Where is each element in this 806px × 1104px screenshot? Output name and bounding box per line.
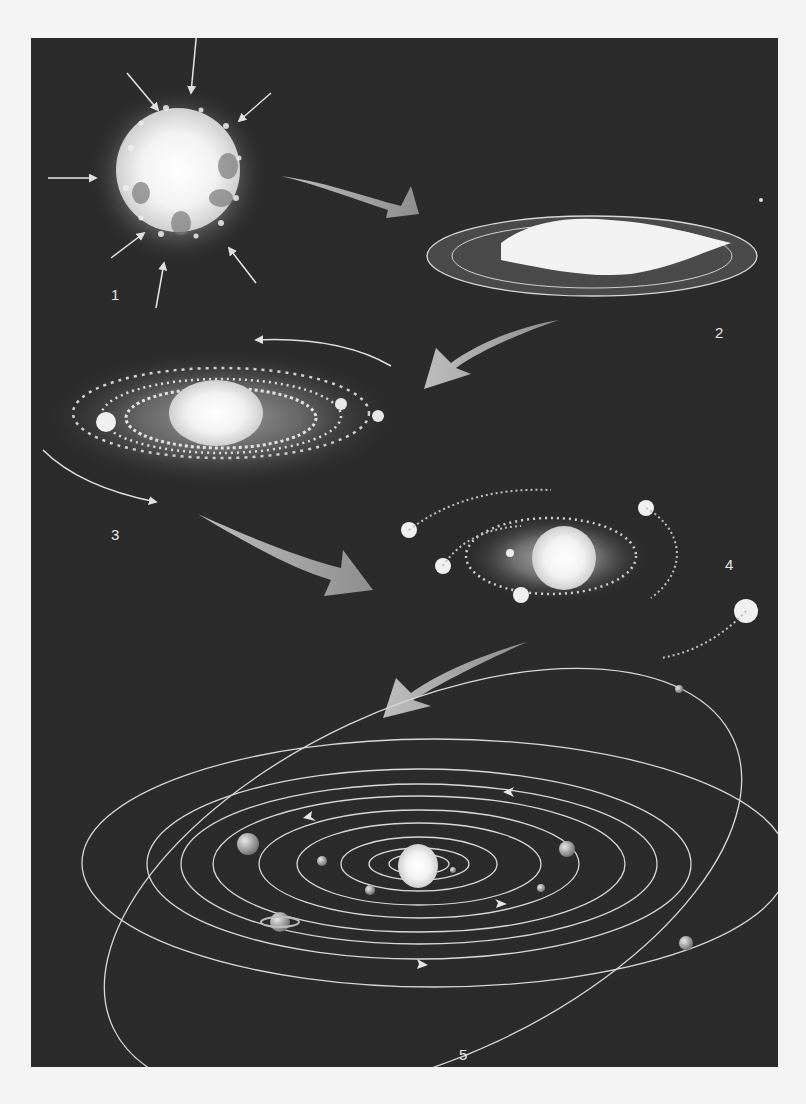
transition-arrow-1-2	[281, 176, 419, 218]
stage-label-4: 4	[725, 556, 733, 573]
stage-3-protostar-rings: 3	[41, 340, 401, 543]
figure-panel: 1 2 3	[31, 38, 778, 1067]
solar-system-formation-diagram: 1 2 3	[31, 38, 778, 1067]
stage-4-protoplanets: 4	[401, 490, 758, 658]
planet	[317, 856, 327, 866]
transition-arrow-3-4	[198, 514, 373, 596]
transition-arrow-2-3	[424, 320, 559, 389]
planet	[537, 884, 545, 892]
stage-1-collapsing-cloud: 1	[48, 38, 271, 308]
stage-label-1: 1	[111, 286, 119, 303]
ringed-planet	[261, 912, 299, 932]
planets: 5	[237, 685, 693, 1063]
stage-label-3: 3	[111, 526, 119, 543]
planet	[450, 867, 456, 873]
stage-2-flattened-disk: 2	[427, 198, 763, 341]
stage-label-2: 2	[715, 324, 723, 341]
stage-label-5: 5	[459, 1046, 467, 1063]
stage-5-solar-system	[39, 580, 778, 1067]
planet	[675, 685, 683, 693]
planet	[559, 841, 575, 857]
sun	[398, 844, 438, 888]
planet	[365, 885, 375, 895]
planet	[679, 936, 693, 950]
planet	[237, 833, 259, 855]
transition-arrow-4-5	[383, 642, 527, 718]
